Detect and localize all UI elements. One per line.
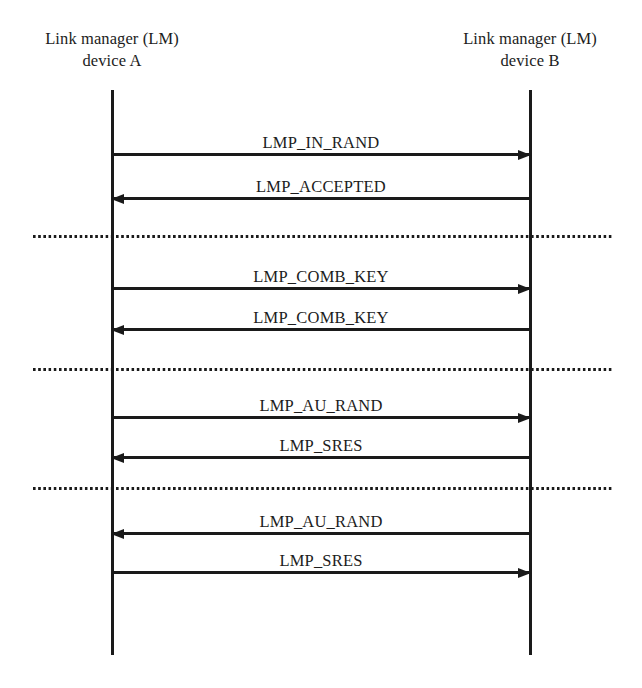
message-arrow-3: LMP_COMB_KEY [112,254,530,290]
message-label-6: LMP_SRES [112,437,530,455]
message-arrow-2: LMP_ACCEPTED [112,164,530,200]
lifeline-header-device-b-line2: device B [418,50,642,72]
arrowhead-left-icon-4 [111,325,124,335]
message-label-4: LMP_COMB_KEY [112,309,530,327]
arrowhead-right-icon-8 [518,568,531,578]
message-line-8 [112,571,530,574]
message-label-7: LMP_AU_RAND [112,513,530,531]
message-line-5 [112,416,530,419]
message-arrow-8: LMP_SRES [112,538,530,574]
message-label-8: LMP_SRES [112,552,530,570]
message-arrow-7: LMP_AU_RAND [112,499,530,535]
arrowhead-left-icon-2 [111,194,124,204]
arrowhead-right-icon-3 [518,284,531,294]
arrowhead-left-icon-6 [111,453,124,463]
phase-separator-3 [33,487,612,490]
message-line-2 [112,197,530,200]
message-line-3 [112,287,530,290]
message-label-2: LMP_ACCEPTED [112,178,530,196]
message-arrow-1: LMP_IN_RAND [112,120,530,156]
phase-separator-1 [33,235,612,238]
message-line-1 [112,153,530,156]
lifeline-header-device-b-line1: Link manager (LM) [418,28,642,50]
lifeline-header-device-a: Link manager (LM) device A [0,28,224,72]
arrowhead-right-icon-1 [518,150,531,160]
message-arrow-6: LMP_SRES [112,423,530,459]
message-label-3: LMP_COMB_KEY [112,268,530,286]
phase-separator-2 [33,368,612,371]
message-arrow-4: LMP_COMB_KEY [112,295,530,331]
message-line-4 [112,328,530,331]
message-label-1: LMP_IN_RAND [112,134,530,152]
message-line-7 [112,532,530,535]
message-arrow-5: LMP_AU_RAND [112,383,530,419]
message-label-5: LMP_AU_RAND [112,397,530,415]
sequence-diagram-canvas: Link manager (LM) device A Link manager … [0,0,642,688]
lifeline-header-device-a-line2: device A [0,50,224,72]
lifeline-header-device-b: Link manager (LM) device B [418,28,642,72]
lifeline-header-device-a-line1: Link manager (LM) [0,28,224,50]
message-line-6 [112,456,530,459]
arrowhead-right-icon-5 [518,413,531,423]
